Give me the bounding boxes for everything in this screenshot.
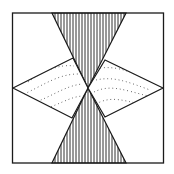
quilt-block-diagram: [0, 0, 174, 174]
right-dotted-kite: [88, 60, 163, 117]
left-dotted-kite: [13, 58, 88, 118]
